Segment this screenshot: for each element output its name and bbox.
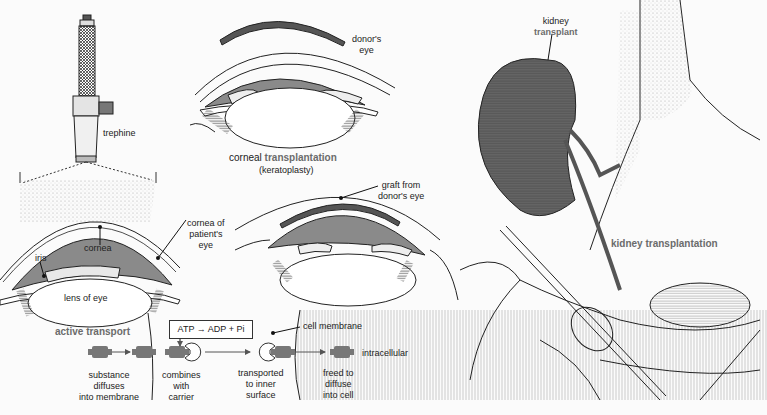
corneal-transplant-eye-graft: [235, 186, 458, 306]
label-line: cornea of: [187, 218, 225, 229]
keratoplasty-subtitle: (keratoplasty): [259, 165, 314, 176]
cell-membrane-label: cell membrane: [303, 321, 362, 332]
caption-line: diffuse: [323, 379, 354, 390]
iris-label: iris: [35, 253, 47, 264]
kidney-transplant-label: kidney transplant: [534, 16, 578, 38]
caption-line: diffuses: [79, 381, 139, 392]
caption-line: substance: [79, 370, 139, 381]
caption-line: combines: [162, 370, 201, 381]
title-highlight: transport: [86, 326, 130, 337]
cornea-label: cornea: [84, 243, 112, 254]
label-line-highlight: transplant: [534, 27, 578, 38]
donors-eye-label: donor's eye: [352, 34, 381, 56]
label-line: graft from: [378, 180, 424, 191]
label-line: eye: [187, 240, 225, 251]
donors-eye-label-line1: donor's: [352, 34, 381, 45]
donors-eye-label-line2: eye: [352, 45, 381, 56]
transport-step-3-caption: transported to inner surface: [238, 368, 284, 401]
kidney-transplantation-title: kidney transplantation: [611, 238, 718, 249]
carrier-complex-icon: [165, 343, 201, 361]
caption-line: carrier: [162, 392, 201, 403]
caption-line: transported: [238, 368, 284, 379]
intracellular-label: intracellular: [362, 348, 408, 359]
cornea-of-patients-eye-label: cornea of patient's eye: [187, 218, 225, 251]
corneal-transplantation-title: corneal transplantation: [229, 152, 337, 163]
caption-line: freed to: [323, 368, 354, 379]
label-line: donor's eye: [378, 191, 424, 202]
caption-line: with: [162, 381, 201, 392]
label-line: patient's: [187, 229, 225, 240]
atp-reaction-box: ATP → ADP + Pi: [169, 320, 253, 339]
substance-molecule-icon: [88, 346, 112, 358]
title-prefix: active: [55, 326, 83, 337]
caption-line: into cell: [323, 390, 354, 401]
title-highlight: transplantation: [265, 152, 337, 163]
label-line: kidney: [534, 16, 578, 27]
transport-step-4-caption: freed to diffuse into cell: [323, 368, 354, 401]
patient-eye-illustration: [0, 220, 186, 327]
title-highlight: transplantation: [645, 238, 717, 249]
lens-of-eye-label: lens of eye: [64, 293, 108, 304]
trephine-illustration: [20, 15, 156, 222]
caption-line: surface: [238, 390, 284, 401]
transport-step-2-caption: combines with carrier: [162, 370, 201, 403]
caption-line: into membrane: [79, 392, 139, 403]
trephine-label: trephine: [103, 128, 136, 139]
title-prefix: kidney: [611, 238, 643, 249]
title-prefix: corneal: [229, 152, 262, 163]
transport-step-1-caption: substance diffuses into membrane: [79, 370, 139, 403]
graft-from-donors-eye-label: graft from donor's eye: [378, 180, 424, 202]
caption-line: to inner: [238, 379, 284, 390]
active-transport-title: active transport: [55, 326, 130, 337]
carrier-complex-icon: [259, 343, 295, 361]
